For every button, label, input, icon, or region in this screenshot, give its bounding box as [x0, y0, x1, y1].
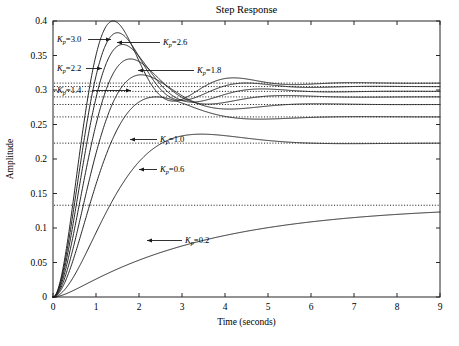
curve-annotation-label: Kp=2.6 — [162, 37, 188, 48]
y-tick-label: 0 — [42, 292, 47, 302]
x-tick-label: 3 — [180, 302, 185, 312]
response-curve — [53, 33, 440, 297]
curve-annotation-label: Kp=2.2 — [56, 63, 81, 74]
x-tick-label: 4 — [223, 302, 228, 312]
y-tick-label: 0.35 — [30, 51, 47, 61]
curve-annotation-label: Kp=0.6 — [159, 164, 185, 175]
response-curve — [53, 59, 440, 297]
y-tick-label: 0.2 — [35, 154, 47, 164]
x-tick-label: 2 — [137, 302, 142, 312]
response-curve — [53, 75, 440, 297]
step-response-chart: 012345678900.050.10.150.20.250.30.350.4S… — [0, 0, 459, 346]
curve-annotation-label: Kp=1.0 — [159, 134, 184, 145]
curve-annotation: Kp=1.8 — [138, 65, 221, 76]
y-tick-label: 0.05 — [30, 258, 47, 268]
curve-annotation: Kp=3.0 — [56, 34, 111, 45]
x-axis-label: Time (seconds) — [217, 317, 276, 328]
curve-annotation: Kp=0.2 — [147, 235, 209, 246]
y-tick-label: 0.1 — [35, 223, 47, 233]
x-tick-label: 5 — [266, 302, 271, 312]
chart-title: Step Response — [216, 4, 278, 15]
chart-figure: 012345678900.050.10.150.20.250.30.350.4S… — [0, 0, 459, 346]
curve-annotation-label: Kp=0.2 — [184, 235, 209, 246]
curve-annotation-label: Kp=1.8 — [196, 65, 221, 76]
curve-annotation-label: Kp=1.4 — [56, 85, 82, 96]
x-tick-label: 9 — [438, 302, 443, 312]
curve-annotation: Kp=0.6 — [139, 164, 185, 175]
x-tick-label: 7 — [352, 302, 357, 312]
curve-annotation: Kp=2.2 — [56, 63, 102, 74]
y-tick-label: 0.3 — [35, 85, 47, 95]
y-tick-label: 0.15 — [30, 189, 47, 199]
x-tick-label: 1 — [94, 302, 99, 312]
y-tick-label: 0.25 — [30, 120, 47, 130]
y-axis-label: Amplitude — [5, 139, 15, 180]
x-tick-label: 8 — [395, 302, 400, 312]
response-curve — [53, 97, 440, 297]
curve-annotation-label: Kp=3.0 — [56, 34, 81, 45]
x-tick-label: 0 — [51, 302, 56, 312]
x-tick-label: 6 — [309, 302, 314, 312]
response-curve — [53, 212, 440, 297]
response-curve — [53, 44, 440, 297]
y-tick-label: 0.4 — [35, 16, 47, 26]
response-curve — [53, 21, 440, 297]
